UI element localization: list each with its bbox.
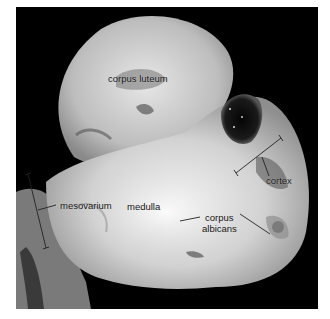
label-corpus-luteum: corpus luteum <box>108 74 168 84</box>
mesovarium-bracket-line <box>28 174 46 248</box>
label-corpus-albicans-line2: albicans <box>202 224 237 234</box>
label-mesovarium: mesovarium <box>60 201 112 211</box>
label-cortex: cortex <box>266 176 292 186</box>
label-corpus-albicans-line1: corpus <box>205 213 234 223</box>
corpus-albicans-leader-left <box>180 217 200 221</box>
cortex-bracket-line <box>236 138 281 173</box>
cortex-leader-line <box>262 157 269 176</box>
annotation-lines <box>0 0 330 319</box>
label-medulla: medulla <box>127 202 160 212</box>
mesovarium-leader-line <box>38 205 56 210</box>
corpus-albicans-leader-right <box>240 214 270 234</box>
